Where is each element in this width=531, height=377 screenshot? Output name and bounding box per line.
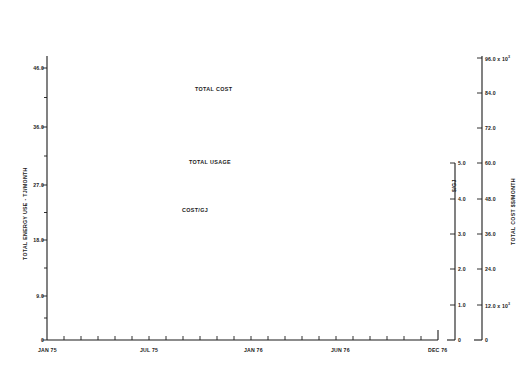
gj-tick-label-2: 2.0: [458, 266, 466, 272]
left-tick-label-0: 0: [36, 337, 44, 343]
x-axis: [47, 330, 438, 340]
series-label-total-cost: TOTAL COST: [195, 86, 232, 92]
gj-tick-label-0: 0: [458, 337, 461, 343]
cost-tick-text-12: 12.0 x 10: [485, 303, 508, 309]
cost-tick-label-72: 72.0: [485, 125, 496, 131]
x-tick-label-jul-75: JUL 75: [140, 347, 158, 353]
left-axis-ticks: [42, 68, 47, 340]
gj-tick-label-5: 5.0: [458, 160, 466, 166]
series-label-cost-per-gj: COST/GJ: [182, 207, 208, 213]
gj-tick-label-3: 3.0: [458, 231, 466, 237]
x-tick-label-jan-76: JAN 76: [244, 347, 263, 353]
cost-axis: [474, 56, 482, 340]
cost-tick-label-84: 84.0: [485, 90, 496, 96]
cost-tick-label-48: 48.0: [485, 196, 496, 202]
cost-tick-label-60: 60.0: [485, 160, 496, 166]
left-tick-label-9: 9.0: [27, 293, 44, 299]
x-tick-label-dec-76: DEC 76: [428, 347, 447, 353]
cost-axis-title: TOTAL COST $$/MONTH: [510, 178, 516, 245]
cost-tick-exponent-12: 3: [508, 302, 510, 306]
cost-tick-label-24: 24.0: [485, 266, 496, 272]
chart-figure: 46.0 36.0 27.0 18.0 9.0 0 TOTAL ENERGY U…: [0, 0, 531, 377]
gj-tick-label-1: 1.0: [458, 302, 466, 308]
gj-tick-label-4: 4.0: [458, 196, 466, 202]
cost-tick-label-0: 0: [485, 337, 488, 343]
cost-tick-text-96: 96.0 x 10: [485, 56, 508, 62]
x-tick-label-jun-76: JUN 76: [331, 347, 350, 353]
left-tick-label-46: 46.0: [27, 65, 44, 71]
gj-axis-title: $/GJ: [451, 179, 457, 192]
cost-tick-label-36: 36.0: [485, 231, 496, 237]
cost-tick-exponent-96: 3: [508, 55, 510, 59]
left-axis-title: TOTAL ENERGY USE - TJ/MONTH: [22, 167, 28, 260]
left-tick-label-36: 36.0: [27, 124, 44, 130]
left-tick-label-27: 27.0: [27, 182, 44, 188]
cost-axis-ticks: [477, 58, 482, 305]
x-tick-label-jan-75: JAN 75: [38, 347, 57, 353]
x-axis-ticks: [64, 336, 421, 340]
left-tick-label-18: 18.0: [27, 237, 44, 243]
cost-tick-label-96: 96.0 x 103: [485, 55, 510, 62]
series-label-total-usage: TOTAL USAGE: [189, 159, 231, 165]
cost-tick-label-12: 12.0 x 103: [485, 302, 510, 309]
